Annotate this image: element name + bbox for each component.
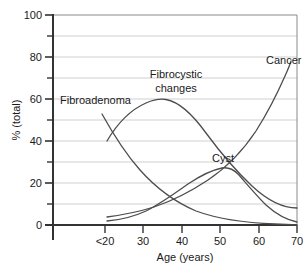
breast-disease-age-distribution-chart: 100 80 60 40 20 0 <20 30 40 50 60 70 Age… [0,0,306,266]
y-tick-label-0: 0 [36,219,42,231]
chart-background [0,0,306,266]
y-tick-label-60: 60 [30,93,42,105]
series-label-fibrocystic-line2: changes [155,82,197,94]
x-tick-label-40: 40 [176,235,188,247]
y-tick-label-20: 20 [30,177,42,189]
y-axis-title: % (total) [10,100,22,141]
y-tick-label-100: 100 [24,9,42,21]
x-tick-label-under20: <20 [96,235,115,247]
series-label-fibroadenoma: Fibroadenoma [60,94,132,106]
x-tick-label-30: 30 [137,235,149,247]
x-tick-label-60: 60 [253,235,265,247]
x-tick-label-70: 70 [291,235,303,247]
y-tick-label-80: 80 [30,51,42,63]
chart-figure: 100 80 60 40 20 0 <20 30 40 50 60 70 Age… [0,0,306,266]
x-tick-label-50: 50 [214,235,226,247]
x-axis-title: Age (years) [157,251,214,263]
y-tick-label-40: 40 [30,135,42,147]
series-label-cyst: Cyst [212,152,234,164]
series-label-fibrocystic-line1: Fibrocystic [150,68,203,80]
series-label-cancer: Cancer [266,54,302,66]
